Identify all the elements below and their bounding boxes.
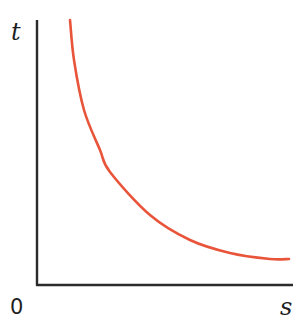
chart: t 0 s (0, 0, 304, 323)
y-axis-label: t (11, 18, 21, 46)
t-vs-s-curve (70, 20, 289, 259)
origin-label: 0 (10, 295, 23, 319)
x-axis-label: s (280, 293, 292, 321)
